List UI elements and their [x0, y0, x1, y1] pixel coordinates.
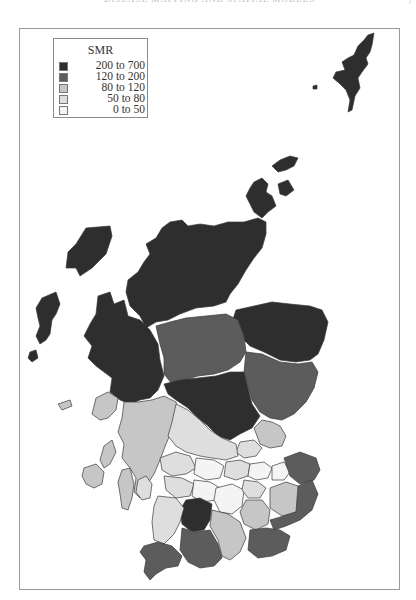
region-islay[interactable]	[82, 464, 104, 488]
region-jura[interactable]	[100, 440, 116, 468]
legend-item: 0 to 50	[59, 105, 145, 116]
legend: SMR 200 to 700 120 to 200 80 to 120 50 t…	[53, 38, 148, 118]
region-edinburgh[interactable]	[248, 462, 272, 480]
legend-title: SMR	[54, 43, 147, 58]
legend-label: 0 to 50	[113, 103, 145, 115]
region-lothian-west[interactable]	[224, 460, 250, 480]
legend-swatch	[59, 106, 68, 115]
region-orkney-east[interactable]	[278, 180, 294, 196]
region-annandale[interactable]	[248, 528, 290, 558]
region-coll-tiree[interactable]	[58, 400, 72, 410]
region-orkney[interactable]	[246, 178, 276, 218]
region-kintyre[interactable]	[118, 468, 134, 510]
legend-swatch	[59, 73, 68, 82]
region-cumnock[interactable]	[180, 498, 212, 532]
region-clydeside-b[interactable]	[194, 458, 224, 480]
region-berwickshire[interactable]	[284, 452, 320, 484]
region-western-isles-lewis[interactable]	[66, 226, 112, 276]
region-wigtown[interactable]	[140, 542, 182, 580]
region-midlothian[interactable]	[242, 480, 266, 498]
region-tweeddale[interactable]	[240, 500, 270, 530]
region-fife-south[interactable]	[236, 440, 262, 458]
region-clydeside-c[interactable]	[164, 476, 194, 498]
region-dundee-fife[interactable]	[254, 420, 286, 448]
region-clydeside-a[interactable]	[160, 452, 196, 476]
region-orkney-north[interactable]	[272, 156, 298, 172]
region-mull[interactable]	[92, 392, 118, 420]
region-lanark[interactable]	[214, 484, 244, 514]
legend-swatch	[59, 62, 68, 71]
region-western-isles-south[interactable]	[36, 292, 60, 344]
region-shetland-isle[interactable]	[313, 85, 317, 89]
region-kyle-carrick[interactable]	[152, 496, 184, 544]
legend-swatch	[59, 84, 68, 93]
legend-swatch	[59, 95, 68, 104]
region-western-isles-barra[interactable]	[28, 350, 38, 362]
region-shetland[interactable]	[333, 33, 374, 112]
